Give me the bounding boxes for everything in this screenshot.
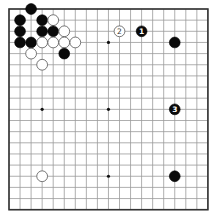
black-stone[interactable] (15, 15, 26, 26)
white-stone[interactable]: 2 (114, 26, 125, 37)
black-stone-disc (37, 15, 48, 26)
white-stone[interactable] (59, 37, 70, 48)
black-stone[interactable] (59, 48, 70, 59)
black-stone[interactable] (26, 4, 37, 15)
black-stone-disc (26, 37, 37, 48)
black-stone-disc (59, 48, 70, 59)
white-stone-disc (37, 37, 48, 48)
black-stone[interactable] (169, 171, 180, 182)
black-stone[interactable] (26, 37, 37, 48)
white-stone[interactable] (37, 37, 48, 48)
black-stone-disc (37, 26, 48, 37)
black-stone[interactable] (15, 37, 26, 48)
black-stone-disc (15, 26, 26, 37)
white-stone[interactable] (48, 15, 59, 26)
black-stone-disc (169, 171, 180, 182)
black-stone-disc (15, 15, 26, 26)
black-stone[interactable] (37, 26, 48, 37)
star-point (107, 108, 110, 111)
white-stone-disc (26, 48, 37, 59)
black-stone[interactable] (48, 26, 59, 37)
move-number-label: 3 (172, 105, 177, 114)
black-stone-disc (15, 37, 26, 48)
white-stone-disc (48, 15, 59, 26)
move-number-label: 2 (117, 27, 122, 36)
star-point (107, 175, 110, 178)
black-stone[interactable]: 1 (136, 26, 147, 37)
black-stone-disc (48, 26, 59, 37)
star-point (41, 108, 44, 111)
white-stone-disc (59, 26, 70, 37)
white-stone-disc (37, 171, 48, 182)
white-stone[interactable] (37, 59, 48, 70)
white-stone[interactable] (37, 171, 48, 182)
black-stone[interactable] (37, 15, 48, 26)
white-stone-disc (48, 37, 59, 48)
go-board[interactable]: 213 (0, 0, 211, 213)
white-stone-disc (70, 37, 81, 48)
white-stone-disc (37, 59, 48, 70)
white-stone[interactable] (48, 37, 59, 48)
black-stone[interactable] (169, 37, 180, 48)
black-stone-disc (26, 4, 37, 15)
black-stone[interactable] (15, 26, 26, 37)
white-stone-disc (59, 37, 70, 48)
white-stone[interactable] (70, 37, 81, 48)
star-point (107, 41, 110, 44)
black-stone[interactable]: 3 (169, 104, 180, 115)
move-number-label: 1 (139, 27, 144, 36)
white-stone[interactable] (59, 26, 70, 37)
black-stone-disc (169, 37, 180, 48)
white-stone[interactable] (26, 48, 37, 59)
